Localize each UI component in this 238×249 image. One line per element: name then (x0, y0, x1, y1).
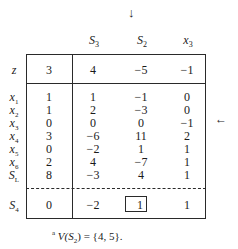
cell: 0 (34, 117, 64, 129)
cell: −3 (126, 104, 156, 116)
cell: −2 (78, 199, 108, 211)
cell: 11 (126, 130, 156, 142)
column-header-s3: S3 (74, 33, 114, 49)
objective-divider (26, 83, 206, 84)
cut-divider-dashed (26, 188, 206, 189)
cell: −3 (78, 169, 108, 181)
cell: 8 (34, 169, 64, 181)
pivot-element: 1 (125, 196, 147, 212)
cell: 1 (172, 199, 202, 211)
column-header-x3: x3 (168, 33, 208, 49)
cell: 2 (172, 130, 202, 142)
cell: −7 (126, 156, 156, 168)
cell: 1 (172, 143, 202, 155)
cell: 2 (78, 104, 108, 116)
row-label: SL (4, 169, 24, 186)
column-header-s2: S2 (122, 33, 162, 49)
cell: 2 (34, 156, 64, 168)
cell: 0 (172, 104, 202, 116)
row-label-z: z (4, 64, 24, 76)
objective-value: −5 (126, 64, 156, 76)
rhs-divider (72, 54, 73, 219)
footnote-rest: ) = {4, 5}. (77, 230, 122, 242)
cell: 0 (34, 143, 64, 155)
cell: 1 (172, 156, 202, 168)
cell: −1 (172, 117, 202, 129)
cell: 1 (34, 104, 64, 116)
objective-value: 4 (78, 64, 108, 76)
cell: 0 (172, 91, 202, 103)
column-header-subscript: 2 (143, 40, 147, 49)
cell: 0 (78, 117, 108, 129)
cell: 4 (126, 169, 156, 181)
footnote: a V(S2) = {4, 5}. (52, 229, 122, 245)
cell: 1 (78, 91, 108, 103)
cell: −2 (78, 143, 108, 155)
column-header-subscript: 3 (189, 40, 193, 49)
cell: 0 (126, 117, 156, 129)
cell: 1 (34, 91, 64, 103)
column-header-subscript: 3 (95, 40, 99, 49)
cell: −6 (78, 130, 108, 142)
cell: −1 (126, 91, 156, 103)
entering-column-arrow-icon: ↓ (128, 6, 135, 20)
footnote-text: V(S (58, 230, 74, 242)
leaving-row-arrow-icon: ← (215, 112, 227, 127)
objective-value: −1 (172, 64, 202, 76)
cell: 1 (172, 169, 202, 181)
cell: 1 (126, 143, 156, 155)
cell: 4 (78, 156, 108, 168)
cell: 0 (34, 199, 64, 211)
row-label: S4 (4, 199, 24, 216)
footnote-marker: a (52, 229, 55, 237)
cell: 3 (34, 130, 64, 142)
objective-rhs: 3 (34, 64, 64, 76)
